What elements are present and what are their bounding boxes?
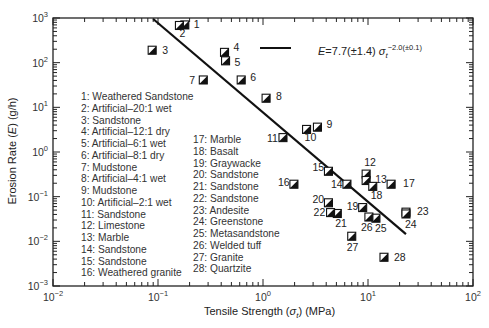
y-tick-label: 100: [32, 144, 48, 158]
legend-entry: 16: Weathered granite: [81, 267, 194, 279]
y-tick-label: 10−3: [28, 278, 48, 292]
eq-exponent: −2.0(±0.1): [388, 43, 422, 52]
data-point-14: 14: [331, 178, 351, 190]
y-tick-label: 10−2: [28, 233, 48, 247]
point-label: 26: [361, 221, 373, 233]
data-point-24: 24: [402, 210, 417, 230]
x-tick-label: 10−1: [148, 289, 168, 303]
point-label: 9: [326, 118, 332, 130]
point-label: 4: [234, 41, 240, 53]
data-point-2: 2: [175, 21, 185, 39]
point-label: 18: [371, 189, 383, 201]
x-tick-label: 101: [360, 289, 376, 303]
y-tick-label: 102: [32, 55, 48, 69]
data-point-12: 12: [362, 156, 376, 178]
point-label: 14: [331, 178, 343, 190]
data-point-28: 28: [380, 251, 406, 263]
data-point-21: 21: [333, 209, 347, 229]
data-point-19: 19: [347, 200, 367, 212]
point-label: 21: [335, 217, 347, 229]
legend-entry: 4: Artificial–12:1 dry: [81, 126, 194, 138]
legend-entry: 18: Basalt: [193, 146, 280, 158]
legend-entry: 3: Sandstone: [81, 115, 194, 127]
legend-entry: 25: Metasandstone: [193, 228, 280, 240]
point-label: 7: [189, 74, 195, 86]
y-tick-label: 10−1: [28, 189, 48, 203]
legend-entry: 26: Welded tuff: [193, 240, 280, 252]
legend-entry: 28: Quartzite: [193, 263, 280, 275]
legend-entry: 12: Limestone: [81, 220, 194, 232]
eq-coef: 7.7(±1.4): [332, 45, 376, 57]
point-label: 15: [312, 161, 324, 173]
point-label: 8: [276, 90, 282, 102]
x-tick-label: 10−2: [43, 289, 63, 303]
point-label: 25: [375, 222, 387, 234]
point-label: 19: [347, 200, 359, 212]
legend-entry: 10: Artificial–2:1 wet: [81, 197, 194, 209]
y-tick-label: 103: [32, 10, 48, 24]
point-label: 12: [364, 156, 376, 168]
y-axis-label: Erosion Rate (E) (g/h): [6, 91, 18, 211]
legend-entry: 20: Sandstone: [193, 169, 280, 181]
x-tick-label: 102: [465, 289, 481, 303]
legend-column-1: 1: Weathered Sandstone2: Artificial–20:1…: [81, 91, 194, 279]
legend-entry: 23: Andesite: [193, 205, 280, 217]
point-label: 3: [162, 44, 168, 56]
legend-entry: 13: Marble: [81, 232, 194, 244]
legend-column-2: 17: Marble18: Basalt19: Graywacke20: San…: [193, 134, 280, 275]
legend-entry: 7: Mudstone: [81, 162, 194, 174]
point-label: 27: [347, 241, 359, 253]
legend-entry: 14: Sandstone: [81, 244, 194, 256]
x-axis-label: Tensile Strength (σt) (MPa): [0, 305, 489, 320]
data-point-7: 7: [189, 74, 207, 86]
legend-entry: 2: Artificial–20:1 wet: [81, 103, 194, 115]
data-point-15: 15: [312, 161, 332, 175]
legend-entry: 21: Sandstone: [193, 181, 280, 193]
legend-entry: 17: Marble: [193, 134, 280, 146]
legend-entry: 9: Mudstone: [81, 185, 194, 197]
data-point-16: 16: [278, 176, 298, 188]
legend-entry: 15: Sandstone: [81, 256, 194, 268]
point-label: 28: [394, 251, 406, 263]
legend-entry: 1: Weathered Sandstone: [81, 91, 194, 103]
data-point-5: 5: [222, 56, 241, 68]
data-point-3: 3: [148, 44, 168, 56]
point-label: 22: [314, 206, 326, 218]
point-label: 17: [403, 177, 415, 189]
legend-entry: 27: Granite: [193, 252, 280, 264]
data-point-9: 9: [313, 118, 332, 131]
data-point-18: 18: [369, 182, 383, 201]
point-label: 23: [417, 205, 429, 217]
y-tick-label: 101: [32, 99, 48, 113]
x-tick-label: 100: [255, 289, 271, 303]
data-point-6: 6: [237, 71, 256, 84]
point-label: 24: [405, 218, 417, 230]
point-label: 10: [305, 131, 317, 143]
data-point-8: 8: [262, 90, 282, 102]
legend-entry: 22: Sandstone: [193, 193, 280, 205]
data-point-26: 26: [361, 213, 373, 233]
data-point-27: 27: [347, 232, 359, 253]
data-point-4: 4: [221, 41, 240, 56]
legend-entry: 6: Artificial–8:1 dry: [81, 150, 194, 162]
legend-entry: 19: Graywacke: [193, 158, 280, 170]
fit-equation: E=7.7(±1.4) σt−2.0(±0.1): [318, 43, 422, 60]
legend-entry: 24: Greenstone: [193, 216, 280, 228]
data-point-17: 17: [387, 177, 415, 189]
point-label: 1: [194, 18, 200, 30]
legend-entry: 5: Artificial–6:1 wet: [81, 138, 194, 150]
data-point-22: 22: [314, 206, 335, 218]
legend-entry: 8: Artificial–4:1 wet: [81, 173, 194, 185]
point-label: 16: [278, 176, 290, 188]
point-label: 6: [250, 71, 256, 83]
point-label: 2: [179, 27, 185, 39]
point-label: 20: [312, 193, 324, 205]
legend-entry: 11: Sandstone: [81, 209, 194, 221]
point-label: 5: [235, 56, 241, 68]
